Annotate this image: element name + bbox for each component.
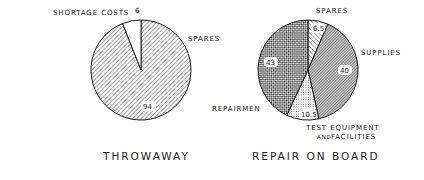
label-and: AND bbox=[317, 134, 332, 140]
label-supplies: SUPPLIES bbox=[361, 49, 401, 57]
pie-charts: SHORTAGE COSTS SPARES 6 94 THROWAWAY SPA… bbox=[0, 0, 424, 180]
value-shortage: 6 bbox=[135, 7, 140, 15]
title-throwaway: THROWAWAY bbox=[102, 150, 190, 162]
value-supplies: 40 bbox=[340, 67, 349, 75]
value-repairmen: 43 bbox=[266, 59, 275, 67]
title-repair-on-board: REPAIR ON BOARD bbox=[252, 150, 380, 162]
label-repairmen: REPAIRMEN bbox=[212, 105, 261, 113]
value-spares-right: 6.5 bbox=[313, 25, 324, 33]
label-spares-right: SPARES bbox=[316, 7, 348, 15]
label-spares-left: SPARES bbox=[188, 35, 220, 43]
throwaway-pie bbox=[91, 20, 191, 120]
label-shortage-costs: SHORTAGE COSTS bbox=[53, 9, 129, 17]
label-facilities: FACILITIES bbox=[331, 133, 376, 141]
value-spares-left: 94 bbox=[143, 103, 152, 111]
label-test-equipment: TEST EQUIPMENT bbox=[305, 124, 380, 132]
value-test-equipment: 10.5 bbox=[301, 111, 317, 119]
